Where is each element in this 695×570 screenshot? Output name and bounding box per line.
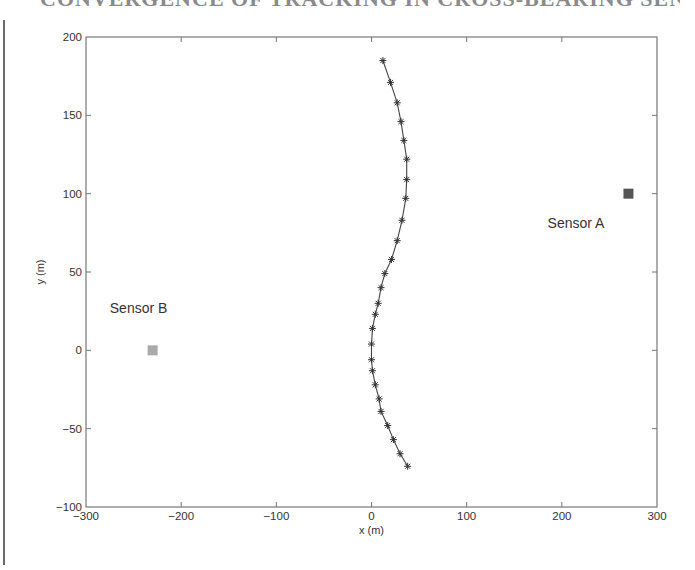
asterisk-marker-icon <box>372 381 379 388</box>
asterisk-marker-icon <box>402 195 409 202</box>
asterisk-marker-icon <box>397 450 404 457</box>
asterisk-marker-icon <box>404 463 411 470</box>
x-tick-label: 0 <box>368 510 374 522</box>
plot-frame <box>86 37 657 507</box>
asterisk-marker-icon <box>398 118 405 125</box>
asterisk-marker-icon <box>381 270 388 277</box>
x-tick-label: −200 <box>168 510 194 522</box>
asterisk-marker-icon <box>368 341 375 348</box>
sensor-markers: Sensor ASensor B <box>110 189 634 356</box>
asterisk-marker-icon <box>403 156 410 163</box>
asterisk-marker-icon <box>390 436 397 443</box>
y-tick-label: 200 <box>63 31 82 43</box>
y-tick-label: 150 <box>63 109 82 121</box>
x-axis-label: x (m) <box>359 524 384 536</box>
trajectory-series <box>368 57 411 470</box>
asterisk-marker-icon <box>394 237 401 244</box>
asterisk-marker-icon <box>376 395 383 402</box>
asterisk-marker-icon <box>394 99 401 106</box>
x-tick-label: 200 <box>552 510 571 522</box>
asterisk-marker-icon <box>387 79 394 86</box>
asterisk-marker-icon <box>375 300 382 307</box>
asterisk-marker-icon <box>398 217 405 224</box>
asterisk-marker-icon <box>378 408 385 415</box>
asterisk-marker-icon <box>388 256 395 263</box>
asterisk-marker-icon <box>378 284 385 291</box>
y-tick-label: −100 <box>56 501 82 513</box>
asterisk-marker-icon <box>369 325 376 332</box>
axes: −300−200−1000100200300−100−5005010015020… <box>56 31 667 522</box>
y-axis-label: y (m) <box>34 259 46 284</box>
y-tick-label: 0 <box>76 344 82 356</box>
sensor-square-icon <box>623 189 633 199</box>
x-tick-label: 100 <box>457 510 476 522</box>
asterisk-marker-icon <box>369 367 376 374</box>
y-tick-label: −50 <box>62 423 82 435</box>
asterisk-marker-icon <box>379 57 386 64</box>
asterisk-marker-icon <box>368 356 375 363</box>
asterisk-marker-icon <box>400 137 407 144</box>
sensor-label: Sensor B <box>110 300 168 316</box>
asterisk-marker-icon <box>384 422 391 429</box>
x-tick-label: −100 <box>263 510 289 522</box>
y-tick-label: 50 <box>69 266 82 278</box>
y-tick-label: 100 <box>63 188 82 200</box>
sensor-square-icon <box>148 345 158 355</box>
trajectory-chart: −300−200−1000100200300−100−5005010015020… <box>0 0 695 570</box>
sensor-label: Sensor A <box>548 215 605 231</box>
asterisk-marker-icon <box>403 176 410 183</box>
x-tick-label: 300 <box>647 510 666 522</box>
asterisk-marker-icon <box>372 311 379 318</box>
